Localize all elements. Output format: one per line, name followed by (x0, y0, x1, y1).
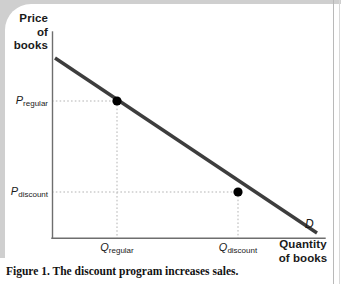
chart-svg (0, 0, 341, 258)
x-axis-title: Quantity of books (272, 238, 334, 265)
y-tick-label-p-discount: Pdiscount (0, 185, 48, 199)
p-regular-symbol: P (16, 94, 23, 106)
regular-price-point (112, 96, 121, 105)
chart-axes (52, 32, 325, 238)
demand-curve-label: D (305, 217, 314, 231)
x-tick-label-q-regular: Qregular (88, 241, 146, 255)
demand-curve-line (55, 58, 317, 233)
y-tick-label-p-regular: Pregular (0, 94, 48, 108)
figure-caption: Figure 1. The discount program increases… (6, 265, 326, 277)
q-discount-subscript: discount (227, 246, 257, 255)
figure-frame: Price of books Quantity of books Pregula… (0, 0, 341, 284)
p-discount-subscript: discount (18, 190, 48, 199)
y-axis-title-line-1: Price (0, 12, 48, 26)
x-tick-label-q-discount: Qdiscount (209, 241, 267, 255)
discount-price-point (233, 187, 242, 196)
y-axis-title: Price of books (0, 12, 48, 53)
y-axis-title-line-3: books (0, 39, 48, 53)
y-axis-title-line-2: of (0, 26, 48, 40)
demand-chart (0, 0, 341, 258)
p-regular-subscript: regular (23, 99, 48, 108)
guide-lines (52, 101, 238, 238)
q-regular-subscript: regular (109, 246, 134, 255)
x-axis-title-line-2: of books (272, 252, 334, 266)
x-axis-title-line-1: Quantity (272, 238, 334, 252)
q-regular-symbol: Q (100, 241, 109, 253)
